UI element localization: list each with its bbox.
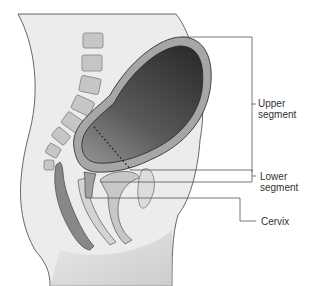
- label-upper-segment: Upper segment: [258, 98, 296, 120]
- label-cervix: Cervix: [261, 216, 289, 227]
- uterus-diagram: [0, 0, 310, 286]
- label-lower-segment: Lower segment: [260, 171, 298, 193]
